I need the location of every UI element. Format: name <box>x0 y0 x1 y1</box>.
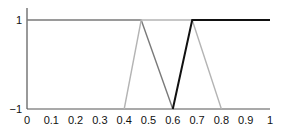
axes <box>27 8 270 109</box>
y-tick-label: 1 <box>16 14 22 26</box>
line-chart: 00.10.20.30.40.50.60.70.80.91 1−1 <box>0 0 288 130</box>
membership-2-line <box>124 20 221 109</box>
x-tick-label: 0.2 <box>68 114 83 126</box>
x-tick-label: 0.9 <box>238 114 253 126</box>
series-lines <box>27 20 270 109</box>
x-tick-label: 0 <box>24 114 30 126</box>
x-tick-label: 0.1 <box>44 114 59 126</box>
x-tick-label: 0.4 <box>117 114 132 126</box>
x-tick-label: 0.7 <box>189 114 204 126</box>
x-tick-label: 0.5 <box>141 114 156 126</box>
y-tick-label: −1 <box>9 103 22 115</box>
membership-1-line <box>27 20 173 109</box>
y-tick-labels: 1−1 <box>9 14 22 115</box>
x-tick-label: 0.3 <box>92 114 107 126</box>
x-tick-labels: 00.10.20.30.40.50.60.70.80.91 <box>24 114 273 126</box>
x-tick-label: 1 <box>267 114 273 126</box>
x-tick-label: 0.8 <box>214 114 229 126</box>
x-tick-label: 0.6 <box>165 114 180 126</box>
membership-3-line <box>173 20 270 109</box>
